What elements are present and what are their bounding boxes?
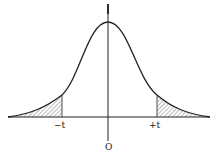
right-cut-label: +t [149,120,161,130]
bell-curve [8,22,210,117]
left-cut-label: −t [54,120,66,130]
right-tail-shading [157,95,210,117]
origin-label: O [105,142,112,152]
normal-curve-diagram: −t +t O [0,0,217,156]
left-tail-shading [8,95,62,117]
